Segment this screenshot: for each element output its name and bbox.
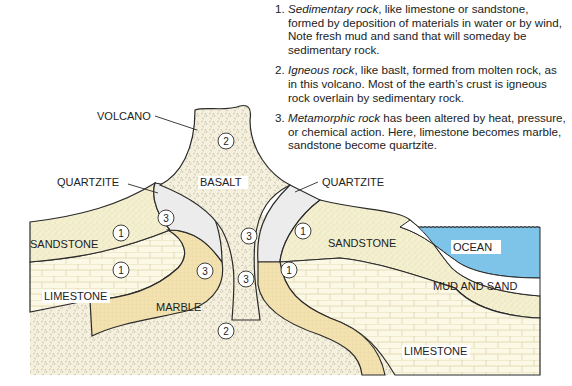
label-sandstone-left: SANDSTONE bbox=[30, 238, 98, 250]
svg-text:1: 1 bbox=[300, 226, 306, 237]
quartzite-right-leader-line bbox=[295, 182, 318, 192]
label-quartzite-left: QUARTZITE bbox=[57, 176, 119, 188]
label-marble: MARBLE bbox=[156, 301, 201, 313]
label-mud-and-sand: MUD AND SAND bbox=[433, 280, 517, 292]
label-sandstone-right: SANDSTONE bbox=[328, 237, 396, 249]
svg-text:3: 3 bbox=[243, 274, 249, 285]
label-limestone-left: LIMESTONE bbox=[44, 290, 107, 302]
marker-metamorphic-quartzite-right: 3 bbox=[241, 228, 257, 244]
svg-text:3: 3 bbox=[246, 231, 252, 242]
label-ocean: OCEAN bbox=[453, 241, 492, 253]
volcano-leader-line bbox=[155, 116, 197, 130]
marker-sedimentary-right-limestone: 1 bbox=[281, 262, 297, 278]
svg-text:2: 2 bbox=[223, 136, 229, 147]
marker-sedimentary-left-sandstone: 1 bbox=[113, 225, 129, 241]
marker-sedimentary-left-limestone: 1 bbox=[113, 262, 129, 278]
svg-text:3: 3 bbox=[163, 213, 169, 224]
svg-text:1: 1 bbox=[286, 265, 292, 276]
label-volcano: VOLCANO bbox=[97, 110, 151, 122]
ocean-surface-waves bbox=[400, 225, 540, 228]
marker-sedimentary-right-sandstone: 1 bbox=[295, 223, 311, 239]
marker-metamorphic-quartzite-left: 3 bbox=[158, 210, 174, 226]
marker-metamorphic-marble-left: 3 bbox=[197, 263, 213, 279]
label-quartzite-right: QUARTZITE bbox=[322, 176, 384, 188]
geology-cross-section: VOLCANO BASALT QUARTZITE QUARTZITE SANDS… bbox=[0, 0, 572, 386]
marker-igneous-bottom: 2 bbox=[218, 323, 234, 339]
svg-text:1: 1 bbox=[118, 228, 124, 239]
svg-text:2: 2 bbox=[223, 326, 229, 337]
marker-metamorphic-marble-right: 3 bbox=[238, 271, 254, 287]
label-basalt: BASALT bbox=[200, 176, 242, 188]
svg-text:1: 1 bbox=[118, 265, 124, 276]
label-limestone-right: LIMESTONE bbox=[404, 345, 467, 357]
svg-text:3: 3 bbox=[202, 266, 208, 277]
marker-igneous-top: 2 bbox=[218, 133, 234, 149]
